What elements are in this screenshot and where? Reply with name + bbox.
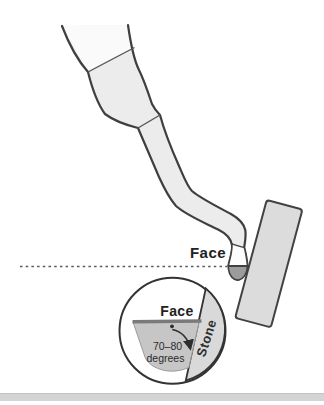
sharpening-diagram: Face Face Stone 70–80 degrees — [0, 0, 324, 405]
magnified-inset: Face Stone 70–80 degrees — [120, 278, 226, 384]
face-label-main: Face — [190, 244, 226, 261]
diagram-canvas: Face Face Stone 70–80 degrees — [0, 0, 324, 405]
angle-arc-origin-dot — [170, 324, 174, 328]
angle-unit-label: degrees — [147, 352, 185, 364]
bottom-divider-bar — [0, 394, 324, 402]
angle-value-label: 70–80 — [153, 340, 182, 352]
blade-tip — [228, 266, 247, 280]
inset-face-edge — [133, 321, 202, 322]
face-label-inset: Face — [160, 303, 194, 319]
blade-back — [229, 244, 248, 266]
